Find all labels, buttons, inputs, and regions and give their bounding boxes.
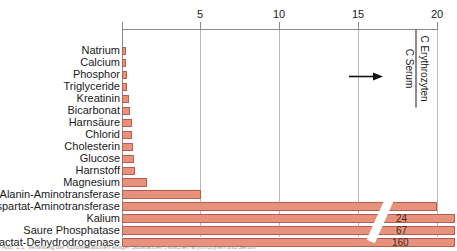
arrow-left-icon bbox=[349, 71, 383, 82]
x-axis-origin-tick bbox=[122, 22, 123, 30]
tick-label-15: 15 bbox=[352, 8, 364, 20]
bar bbox=[122, 47, 126, 55]
tick-label-5: 5 bbox=[197, 8, 203, 20]
tick-mark-20 bbox=[437, 22, 438, 30]
tick-mark-15 bbox=[358, 22, 359, 30]
tick-mark-10 bbox=[279, 22, 280, 30]
figure-caption: Abb. 1.1. Verteilung der Konzentrationen… bbox=[2, 243, 457, 251]
legend-numerator: C Erythrozyten bbox=[418, 27, 430, 111]
bar bbox=[122, 131, 132, 139]
bar bbox=[122, 83, 127, 91]
bar bbox=[122, 71, 127, 79]
bar bbox=[122, 167, 135, 175]
bar bbox=[122, 95, 129, 103]
bar bbox=[122, 155, 134, 163]
bar bbox=[122, 119, 132, 127]
tick-mark-5 bbox=[200, 22, 201, 30]
bar bbox=[122, 178, 147, 187]
bar bbox=[122, 59, 126, 67]
legend-fraction: C Erythrozyten C Serum bbox=[394, 33, 457, 117]
bar bbox=[122, 107, 130, 115]
bar bbox=[122, 143, 133, 151]
bar-chart: 5 10 15 20 Natrium Calcium Phosphor Trig… bbox=[0, 0, 457, 251]
bar bbox=[122, 190, 201, 199]
legend-denominator: C Serum bbox=[403, 27, 415, 111]
legend: C Erythrozyten C Serum bbox=[330, 33, 450, 118]
tick-label-10: 10 bbox=[273, 8, 285, 20]
fraction-bar bbox=[416, 30, 417, 108]
tick-label-20: 20 bbox=[431, 8, 443, 20]
